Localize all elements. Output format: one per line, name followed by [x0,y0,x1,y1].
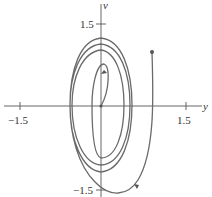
arrowhead-icon [134,184,139,189]
start-point [150,50,154,54]
y-tick-label-bottom: −1.5 [73,184,93,196]
phase-plane-chart: −1.5 1.5 1.5 −1.5 y v [0,0,212,197]
end-point [99,104,102,107]
trajectory-curve [70,38,153,193]
y-axis-label: v [103,0,108,11]
x-tick-label-left: −1.5 [8,114,28,126]
arrowhead-icon [101,70,107,74]
x-axis-label: y [202,100,208,112]
x-tick-label-right: 1.5 [177,114,191,126]
y-tick-label-top: 1.5 [80,18,94,30]
